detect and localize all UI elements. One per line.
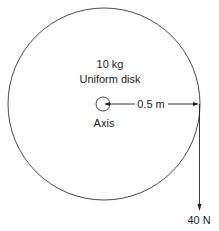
- force-arrowhead: [198, 204, 202, 211]
- disk-diagram: 10 kg Uniform disk Axis 0.5 m 40 N: [0, 0, 219, 231]
- disk-type-label: Uniform disk: [79, 73, 141, 85]
- mass-label: 10 kg: [97, 58, 124, 70]
- radius-label: 0.5 m: [137, 98, 165, 110]
- axis-label: Axis: [94, 117, 115, 129]
- radius-arrowhead-left: [104, 102, 110, 106]
- force-label: 40 N: [187, 214, 210, 226]
- radius-arrowhead-right: [193, 102, 199, 106]
